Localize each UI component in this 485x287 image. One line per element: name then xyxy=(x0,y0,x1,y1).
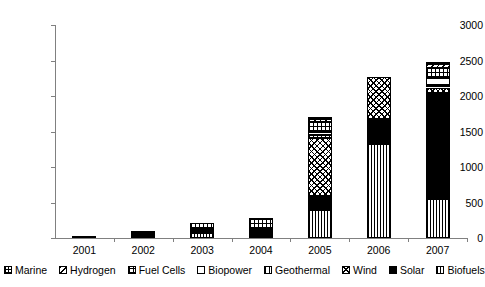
bar-segment-2002-fuel-cells xyxy=(131,231,155,233)
legend-label: Biofuels xyxy=(447,265,484,276)
x-axis-tick-mark xyxy=(467,238,468,242)
legend-label: Hydrogen xyxy=(70,265,116,276)
bar-segment-2003-biofuels xyxy=(190,233,214,238)
bar-segment-2004-solar xyxy=(249,229,273,238)
biopower-swatch-icon xyxy=(197,266,205,274)
bar-segment-2007-hydrogen xyxy=(426,64,450,69)
bar-segment-2002-solar xyxy=(131,233,155,236)
bar-2006 xyxy=(367,25,391,238)
marine-swatch-icon xyxy=(4,266,12,274)
bar-segment-2005-wind xyxy=(308,138,332,196)
x-axis-tick-mark xyxy=(232,238,233,242)
legend-label: Marine xyxy=(15,265,47,276)
legend-label: Wind xyxy=(353,265,377,276)
chart-legend: MarineHydrogenFuel CellsBiopowerGeotherm… xyxy=(4,262,480,278)
x-axis-tick-mark xyxy=(114,238,115,242)
legend-label: Geothermal xyxy=(275,265,330,276)
x-axis-tick-label-2006: 2006 xyxy=(354,245,404,256)
bar-segment-2005-biopower xyxy=(308,132,332,136)
bar-segment-2007-marine xyxy=(426,62,450,64)
biofuels-swatch-icon xyxy=(436,266,444,274)
plot-area xyxy=(55,25,467,238)
legend-item-wind[interactable]: Wind xyxy=(342,265,377,276)
x-axis-tick-label-2001: 2001 xyxy=(59,245,109,256)
bar-2007 xyxy=(426,25,450,238)
x-axis-tick-label-2005: 2005 xyxy=(295,245,345,256)
bar-segment-2007-biopower xyxy=(426,78,450,86)
x-axis-tick-label-2004: 2004 xyxy=(236,245,286,256)
bar-2001 xyxy=(72,25,96,238)
x-axis-tick-mark xyxy=(290,238,291,242)
bar-segment-2004-fuel-cells xyxy=(249,218,273,229)
legend-item-marine[interactable]: Marine xyxy=(4,265,47,276)
bar-segment-2003-solar xyxy=(190,229,214,233)
legend-item-solar[interactable]: Solar xyxy=(389,265,425,276)
bar-segment-2001-solar xyxy=(72,236,96,238)
x-axis-line xyxy=(55,238,467,239)
x-axis-tick-mark xyxy=(349,238,350,242)
bar-segment-2005-hydrogen xyxy=(308,119,332,122)
legend-item-geothermal[interactable]: Geothermal xyxy=(264,265,330,276)
bar-segment-2007-wind xyxy=(426,88,450,93)
geothermal-swatch-icon xyxy=(264,266,272,274)
fuel-cells-swatch-icon xyxy=(128,266,136,274)
x-axis-tick-label-2002: 2002 xyxy=(118,245,168,256)
x-axis-tick-mark xyxy=(408,238,409,242)
bar-2004 xyxy=(249,25,273,238)
bar-segment-2005-fuel-cells xyxy=(308,122,332,132)
legend-label: Fuel Cells xyxy=(139,265,186,276)
bar-segment-2007-fuel-cells xyxy=(426,68,450,77)
x-axis-tick-mark xyxy=(173,238,174,242)
legend-label: Biopower xyxy=(208,265,252,276)
bar-segment-2005-geothermal xyxy=(308,135,332,137)
solar-swatch-icon xyxy=(389,266,397,274)
legend-item-biofuels[interactable]: Biofuels xyxy=(436,265,484,276)
wind-swatch-icon xyxy=(342,266,350,274)
bar-2002 xyxy=(131,25,155,238)
bar-segment-2006-wind xyxy=(367,77,391,119)
bar-segment-2007-biofuels xyxy=(426,199,450,238)
legend-item-fuel-cells[interactable]: Fuel Cells xyxy=(128,265,186,276)
legend-item-biopower[interactable]: Biopower xyxy=(197,265,252,276)
bar-segment-2006-solar xyxy=(367,119,391,144)
x-axis-tick-label-2003: 2003 xyxy=(177,245,227,256)
x-axis-tick-label-2007: 2007 xyxy=(413,245,463,256)
bar-segment-2007-geothermal xyxy=(426,85,450,87)
bar-2003 xyxy=(190,25,214,238)
bar-segment-2006-biofuels xyxy=(367,144,391,238)
bar-segment-2005-solar xyxy=(308,196,332,211)
bar-segment-2003-fuel-cells xyxy=(190,223,214,229)
bar-segment-2005-marine xyxy=(308,117,332,119)
bar-segment-2005-biofuels xyxy=(308,210,332,238)
hydrogen-swatch-icon xyxy=(59,266,67,274)
legend-label: Solar xyxy=(400,265,425,276)
bar-segment-2007-solar xyxy=(426,93,450,199)
bar-2005 xyxy=(308,25,332,238)
legend-item-hydrogen[interactable]: Hydrogen xyxy=(59,265,116,276)
